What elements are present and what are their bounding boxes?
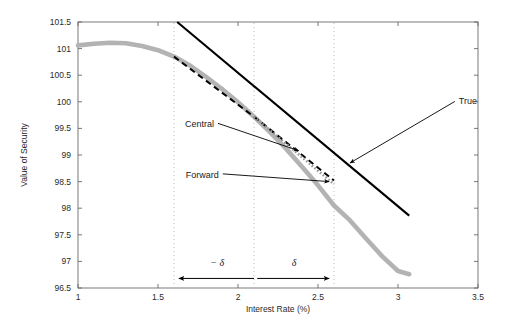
y-tick-label: 97 [62, 256, 72, 266]
y-axis-title: Value of Security [19, 122, 29, 186]
y-tick-label: 98.5 [54, 177, 71, 187]
x-tick-label: 3.5 [472, 292, 484, 302]
chart-figure: 11.522.533.5 96.59797.59898.59999.510010… [0, 0, 512, 325]
x-axis-title: Interest Rate (%) [246, 304, 310, 314]
annotation-label-delta-negative: − δ [210, 257, 224, 268]
annotation-label-forward: Forward [186, 170, 219, 180]
annotation-label-true: True [459, 96, 477, 106]
y-tick-label: 96.5 [54, 283, 71, 293]
x-tick-label: 2 [236, 292, 241, 302]
x-tick-label: 1.5 [152, 292, 164, 302]
y-tick-label: 99 [62, 150, 72, 160]
x-tick-label: 1 [76, 292, 81, 302]
y-tick-label: 101 [57, 44, 71, 54]
chart-background [0, 0, 512, 325]
annotation-label-delta-positive: δ [292, 257, 297, 268]
y-tick-label: 101.5 [50, 17, 72, 27]
annotation-label-central: Central [185, 119, 214, 129]
x-tick-label: 3 [396, 292, 401, 302]
chart-canvas: 11.522.533.5 96.59797.59898.59999.510010… [0, 0, 512, 325]
y-tick-label: 100.5 [50, 70, 72, 80]
y-tick-label: 100 [57, 97, 71, 107]
y-tick-label: 98 [62, 203, 72, 213]
y-tick-label: 99.5 [54, 123, 71, 133]
y-tick-label: 97.5 [54, 230, 71, 240]
x-tick-label: 2.5 [312, 292, 324, 302]
